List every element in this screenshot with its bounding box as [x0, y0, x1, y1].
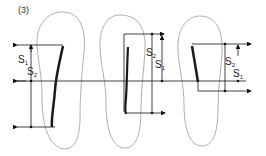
trajectory-right [192, 46, 198, 82]
label-s1-middle: S1 [155, 60, 165, 71]
label-s2-right: S2 [225, 57, 235, 68]
label-s1-left: S1 [18, 55, 28, 66]
panel-label: (3) [18, 5, 29, 15]
label-s1-right: S1 [233, 69, 243, 80]
trajectory-middle [125, 47, 128, 114]
foot-outline-left [37, 12, 85, 149]
foot-outline-middle [100, 15, 145, 148]
label-s2-middle: S2 [146, 48, 156, 59]
label-s2-left: S2 [27, 67, 37, 78]
trajectory-left [52, 46, 63, 127]
foot-diagram [0, 0, 266, 156]
